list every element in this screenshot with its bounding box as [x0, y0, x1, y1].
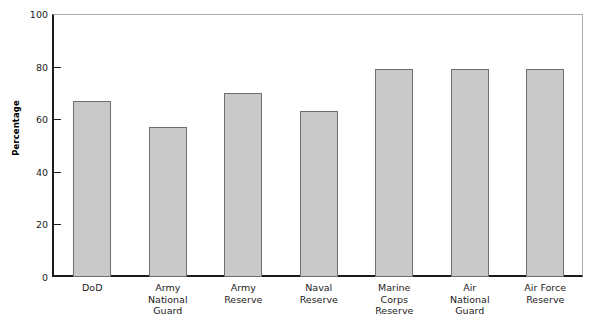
- y-axis-tick-label: 40: [4, 166, 48, 177]
- y-axis-tick-label: 60: [4, 114, 48, 125]
- x-axis-label-line: Corps: [357, 294, 433, 306]
- x-axis-label-line: Reserve: [508, 294, 584, 306]
- x-axis-label-line: Naval: [281, 282, 357, 294]
- bar-chart: Percentage 020406080100 DoDArmyNationalG…: [0, 0, 590, 324]
- x-axis-label-line: National: [432, 294, 508, 306]
- y-axis-title: Percentage: [11, 88, 21, 168]
- x-axis-label-line: DoD: [55, 282, 131, 294]
- bar: [451, 69, 489, 277]
- y-axis-tick-label: 20: [4, 219, 48, 230]
- y-axis-tick-label: 80: [4, 61, 48, 72]
- x-axis-label-line: Guard: [432, 305, 508, 317]
- x-axis-label-line: Marine: [357, 282, 433, 294]
- x-axis-label: ArmyReserve: [206, 282, 282, 305]
- x-axis-label-line: Air Force: [508, 282, 584, 294]
- y-axis-tick-label: 100: [4, 9, 48, 20]
- y-axis-tick: [52, 224, 61, 225]
- y-axis-tick-label: 0: [4, 272, 48, 283]
- x-axis-label: AirNationalGuard: [432, 282, 508, 317]
- x-axis-label: MarineCorpsReserve: [357, 282, 433, 317]
- bar: [375, 69, 413, 277]
- x-axis-label: DoD: [55, 282, 131, 294]
- x-axis-label-line: Army: [206, 282, 282, 294]
- x-axis-label: ArmyNationalGuard: [130, 282, 206, 317]
- y-axis-tick: [52, 67, 61, 68]
- x-axis-label-line: Guard: [130, 305, 206, 317]
- y-axis-tick: [52, 119, 61, 120]
- x-axis-label-line: Reserve: [206, 294, 282, 306]
- bar: [224, 93, 262, 277]
- bar: [300, 111, 338, 277]
- x-axis-label: Air ForceReserve: [508, 282, 584, 305]
- x-axis-label-line: National: [130, 294, 206, 306]
- x-axis-label-line: Reserve: [357, 305, 433, 317]
- bar: [526, 69, 564, 277]
- x-axis-label-line: Reserve: [281, 294, 357, 306]
- y-axis-tick: [52, 172, 61, 173]
- bar: [149, 127, 187, 277]
- bar: [73, 101, 111, 277]
- x-axis-label-line: Air: [432, 282, 508, 294]
- x-axis-label-line: Army: [130, 282, 206, 294]
- x-axis-label: NavalReserve: [281, 282, 357, 305]
